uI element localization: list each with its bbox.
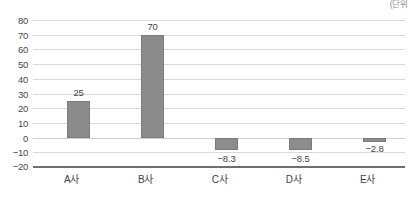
gridline-50 bbox=[33, 64, 405, 65]
value-label-e: −2.8 bbox=[349, 144, 400, 154]
value-label-a: 25 bbox=[53, 88, 104, 98]
bar-e bbox=[363, 138, 386, 142]
unit-annotation: (단위 bbox=[390, 0, 408, 9]
ytick-neg10: −10 bbox=[0, 148, 28, 158]
value-label-d: −8.5 bbox=[275, 154, 326, 164]
ytick-30: 30 bbox=[0, 90, 28, 100]
bar-chart: (단위 25 70 −8.3 −8.5 −2.8 80 70 60 50 40 … bbox=[0, 0, 414, 203]
ytick-20: 20 bbox=[0, 104, 28, 114]
gridline-80 bbox=[33, 20, 405, 21]
ytick-50: 50 bbox=[0, 60, 28, 70]
bar-d bbox=[289, 138, 312, 151]
ytick-60: 60 bbox=[0, 45, 28, 55]
bar-a bbox=[67, 101, 90, 138]
ytick-neg20: −20 bbox=[0, 162, 28, 172]
plot-area: 25 70 −8.3 −8.5 −2.8 bbox=[33, 20, 405, 167]
axis-line-bottom bbox=[33, 166, 405, 168]
gridline-60 bbox=[33, 49, 405, 50]
ytick-80: 80 bbox=[0, 16, 28, 26]
gridline-40 bbox=[33, 79, 405, 80]
category-label-e: E사 bbox=[340, 174, 395, 185]
category-label-d: D사 bbox=[266, 174, 321, 185]
category-label-c: C사 bbox=[192, 174, 247, 185]
gridline-70 bbox=[33, 35, 405, 36]
ytick-40: 40 bbox=[0, 75, 28, 85]
category-label-a: A사 bbox=[44, 174, 99, 185]
bar-c bbox=[215, 138, 238, 150]
value-label-c: −8.3 bbox=[201, 154, 252, 164]
ytick-0: 0 bbox=[0, 134, 28, 144]
bar-b bbox=[141, 35, 164, 138]
ytick-10: 10 bbox=[0, 119, 28, 129]
value-label-b: 70 bbox=[127, 22, 178, 32]
category-label-b: B사 bbox=[118, 174, 173, 185]
ytick-70: 70 bbox=[0, 31, 28, 41]
